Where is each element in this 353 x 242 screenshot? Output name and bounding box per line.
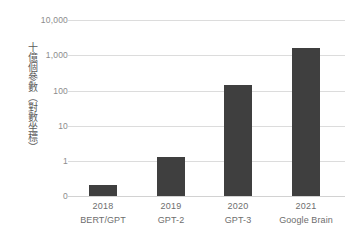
bar-2020-gpt-3 bbox=[224, 85, 252, 196]
x-tick-model-2021: Google Brain bbox=[258, 214, 353, 227]
bar-2021-google-brain bbox=[292, 48, 320, 196]
x-tick-2021: 2021 Google Brain bbox=[258, 200, 353, 227]
bar-chart: 10,000 1,000 100 10 1 0 十億個參數（對數坐標） 2018… bbox=[0, 0, 353, 242]
x-tick-year-2021: 2021 bbox=[258, 200, 353, 212]
bar-2019-gpt-2 bbox=[157, 157, 185, 196]
bar-2018-bert-gpt bbox=[89, 185, 117, 196]
